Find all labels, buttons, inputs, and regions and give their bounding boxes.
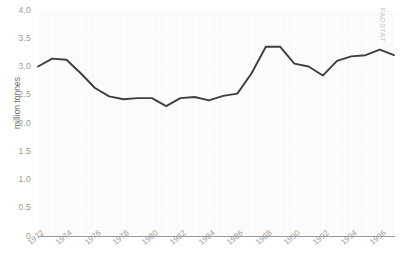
- y-axis-tick-label: 2.0: [3, 119, 31, 128]
- y-axis-tick-label: 3.5: [3, 34, 31, 43]
- watermark-label: FAOSTAT: [379, 8, 386, 42]
- y-axis-tick-label: 3.0: [3, 62, 31, 71]
- y-axis-tick-label: 2.5: [3, 90, 31, 99]
- line-series-path: [38, 47, 394, 106]
- y-axis-tick-label: 1.5: [3, 147, 31, 156]
- line-series-svg: [0, 0, 405, 270]
- y-axis-tick-label: 1.0: [3, 175, 31, 184]
- y-axis-tick-label: 0.5: [3, 203, 31, 212]
- chart-container: million tonnes 00.51.01.52.02.53.03.54.0…: [0, 0, 405, 270]
- y-axis-tick-label: 4.0: [3, 6, 31, 15]
